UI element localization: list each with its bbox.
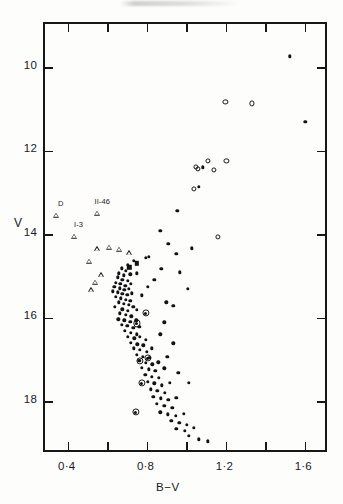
data-point-filled-circle [121, 292, 124, 295]
data-point-filled-circle [152, 395, 155, 398]
data-point-filled-circle [185, 423, 188, 426]
data-point-circled-dot [142, 310, 149, 317]
data-point-filled-circle [120, 267, 123, 270]
data-point-filled-circle [163, 367, 166, 370]
x-tick-label-1.6: 1·6 [283, 460, 323, 472]
data-point-filled-circle [122, 302, 125, 305]
y-tick-right-12 [317, 151, 325, 153]
data-point-filled-circle [171, 304, 174, 307]
data-point-filled-circle [190, 246, 193, 249]
data-point-open-triangle [98, 272, 104, 277]
data-point-filled-circle [166, 413, 169, 416]
data-point-filled-circle [132, 337, 135, 340]
data-point-filled-circle [113, 305, 116, 308]
data-point-filled-circle [130, 292, 133, 295]
x-tick-bottom-1 [186, 442, 188, 450]
data-point-filled-circle [117, 301, 120, 304]
data-point-filled-circle [116, 276, 119, 279]
data-point-filled-circle [144, 338, 147, 341]
data-point-filled-circle [201, 165, 204, 168]
data-point-filled-circle [153, 382, 156, 385]
data-point-filled-circle [160, 383, 163, 386]
x-tick-label-1.2: 1·2 [204, 460, 244, 472]
data-point-open-circle [195, 166, 200, 171]
data-point-filled-circle [150, 347, 153, 350]
data-point-filled-circle [124, 284, 127, 287]
x-tick-top-1.6 [305, 24, 307, 32]
x-tick-top-1.2 [226, 24, 228, 32]
data-point-filled-circle [122, 274, 125, 277]
data-point-filled-circle [118, 287, 121, 290]
data-point-filled-circle [136, 343, 139, 346]
data-point-open-triangle [94, 210, 100, 215]
x-tick-bottom-1.4 [265, 442, 267, 450]
data-point-filled-circle [165, 301, 168, 304]
data-point-filled-circle [116, 291, 119, 294]
x-axis-title: B−V [156, 481, 180, 493]
data-point-filled-circle [154, 369, 157, 372]
data-point-filled-circle [129, 282, 132, 285]
data-point-filled-circle [171, 406, 174, 409]
data-point-filled-circle [145, 350, 148, 353]
data-point-filled-circle [150, 375, 153, 378]
data-point-filled-circle [111, 289, 114, 292]
data-point-filled-circle [138, 335, 141, 338]
data-point-filled-circle [123, 319, 126, 322]
data-point-filled-circle [159, 397, 162, 400]
data-point-filled-circle [124, 298, 127, 301]
data-point-open-circle [224, 158, 229, 163]
data-point-filled-circle [142, 344, 145, 347]
data-point-open-triangle [126, 250, 132, 255]
data-point-filled-circle [192, 426, 195, 429]
data-point-filled-circle [157, 376, 160, 379]
data-point-filled-circle [129, 331, 132, 334]
data-point-filled-circle [143, 373, 146, 376]
data-point-circled-dot [138, 379, 145, 386]
data-point-filled-circle [153, 278, 156, 281]
data-point-filled-circle [147, 255, 150, 258]
y-tick-label-10: 10 [11, 59, 37, 71]
plot-frame: DII-46I-3 [43, 22, 327, 452]
data-point-filled-circle [167, 242, 170, 245]
data-point-filled-circle [117, 317, 120, 320]
data-point-filled-circle [140, 366, 143, 369]
x-tick-bottom-0.4 [68, 442, 70, 450]
y-tick-left-12 [45, 151, 53, 153]
data-point-filled-circle [149, 388, 152, 391]
data-point-filled-circle [160, 267, 163, 270]
y-tick-label-16: 16 [11, 309, 37, 321]
data-point-open-circle [211, 168, 216, 173]
x-tick-top-0.8 [147, 24, 149, 32]
data-point-filled-circle [146, 285, 149, 288]
y-tick-left-14 [45, 234, 53, 236]
data-point-open-triangle [106, 244, 112, 249]
data-point-filled-circle [123, 329, 126, 332]
data-point-filled-circle [128, 320, 131, 323]
data-point-filled-circle [206, 440, 209, 443]
data-point-filled-circle [174, 414, 177, 417]
data-point-filled-circle [174, 252, 177, 255]
data-point-circled-dot [132, 409, 139, 416]
data-point-filled-circle [126, 324, 129, 327]
x-tick-label-0.4: 0·4 [47, 460, 87, 472]
data-point-filled-circle [183, 429, 186, 432]
data-point-open-circle [215, 234, 220, 239]
data-point-filled-circle [170, 419, 173, 422]
data-point-filled-circle [159, 411, 162, 414]
data-point-filled-circle [304, 120, 307, 123]
data-point-filled-circle [155, 402, 158, 405]
data-point-open-triangle [88, 287, 94, 292]
data-point-open-circle [223, 99, 228, 104]
data-point-filled-circle [129, 341, 132, 344]
x-tick-bottom-0.8 [147, 442, 149, 450]
data-point-filled-circle [126, 293, 129, 296]
x-tick-bottom-1.6 [305, 442, 307, 450]
data-point-filled-circle [132, 326, 135, 329]
data-point-filled-circle [166, 355, 169, 358]
data-point-filled-circle [197, 185, 200, 188]
data-point-filled-circle [126, 335, 129, 338]
point-annotation-I-3: I-3 [74, 220, 83, 229]
data-point-filled-circle [174, 427, 177, 430]
data-point-filled-circle [121, 307, 124, 310]
data-point-open-circle [191, 186, 196, 191]
